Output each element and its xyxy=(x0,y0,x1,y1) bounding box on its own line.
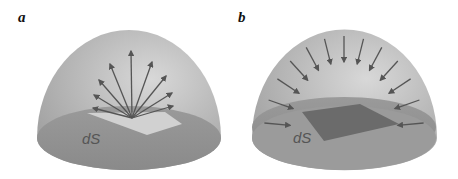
panel-a: a dS xyxy=(18,9,221,170)
figure: a dS b dS xyxy=(0,0,458,179)
surface-label-b: dS xyxy=(293,129,311,146)
panel-b-label: b xyxy=(238,9,246,25)
panel-a-label: a xyxy=(18,9,26,25)
panel-b: b dS xyxy=(238,9,437,170)
surface-label-a: dS xyxy=(82,130,100,147)
